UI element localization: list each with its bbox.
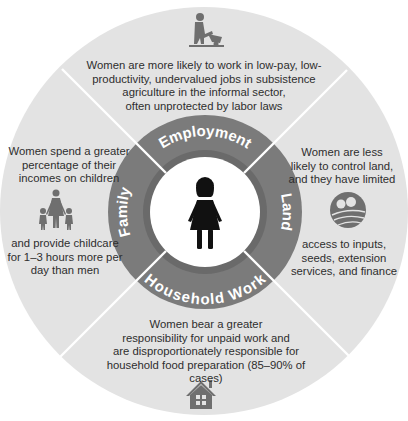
household-line-1: Women bear a greater	[90, 318, 322, 332]
employment-description: Women are more likely to work in low-pay…	[84, 59, 324, 113]
household-line-2: responsibility for unpaid work and	[90, 332, 322, 346]
family-line-2: percentage of their	[4, 159, 134, 173]
land-line-5: seeds, extension	[285, 252, 403, 266]
land-line-3: and they have limited	[282, 173, 402, 187]
land-line-1: Women are less	[282, 146, 402, 160]
employment-line-2: productivity, undervalued jobs in subsis…	[84, 73, 324, 87]
family-line-3: incomes on children	[4, 172, 134, 186]
family-line-6: day than men	[4, 264, 126, 278]
employment-line-1: Women are more likely to work in low-pay…	[84, 59, 324, 73]
family-description-bottom: and provide childcare for 1–3 hours more…	[4, 237, 126, 278]
family-line-5: for 1–3 hours more per	[4, 251, 126, 265]
household-line-3: are disproportionately responsible for	[90, 345, 322, 359]
family-line-4: and provide childcare	[4, 237, 126, 251]
household-line-4: household food preparation (85–90% of ca…	[90, 359, 322, 386]
land-line-2: likely to control land,	[282, 160, 402, 174]
land-description-bottom: access to inputs, seeds, extension servi…	[285, 238, 403, 279]
household-work-description: Women bear a greater responsibility for …	[90, 318, 322, 386]
family-line-1: Women spend a greater	[4, 145, 134, 159]
farmland-icon	[330, 192, 366, 228]
land-line-4: access to inputs,	[285, 238, 403, 252]
employment-line-4: often unprotected by labor laws	[84, 100, 324, 114]
employment-line-3: agriculture in the informal sector,	[84, 86, 324, 100]
land-description-top: Women are less likely to control land, a…	[282, 146, 402, 187]
land-line-6: services, and finance	[285, 265, 403, 279]
family-description-top: Women spend a greater percentage of thei…	[4, 145, 134, 186]
